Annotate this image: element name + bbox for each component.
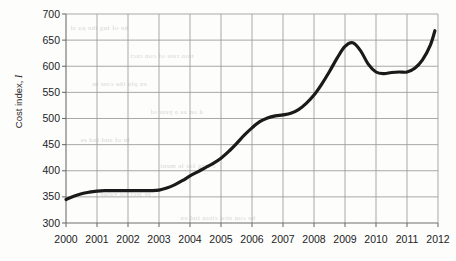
axis-tick-marks: [62, 14, 438, 227]
plot-area: [0, 0, 456, 261]
cost-index-line-chart: he of ing the pa al tion rate of con ruc…: [0, 0, 456, 261]
data-line-cost-index: [66, 31, 435, 200]
